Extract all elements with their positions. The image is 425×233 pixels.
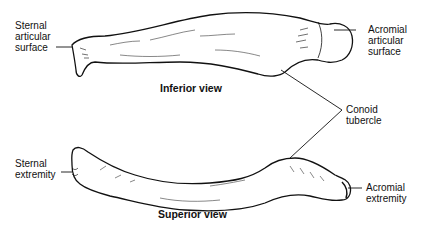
clavicle-diagram: Sternal articular surface Acromial artic… [0,0,425,233]
clavicle-superior-view-drawing [72,148,351,211]
label-sternal-extremity: Sternal extremity [15,158,56,180]
label-conoid-tubercle: Conoid tubercle [346,104,382,126]
inferior-view-caption: Inferior view [160,82,222,94]
superior-view-caption: Superior view [158,208,227,220]
clavicle-inferior-view-drawing [72,13,353,77]
label-sternal-articular-surface: Sternal articular surface [15,20,51,53]
label-acromial-extremity: Acromial extremity [366,182,407,204]
label-acromial-articular-surface: Acromial articular surface [368,24,407,57]
